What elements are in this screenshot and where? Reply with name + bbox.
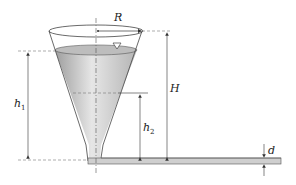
neck-right (101, 145, 103, 158)
h1-label: h1 (14, 97, 26, 112)
outlet-pipe (88, 158, 281, 164)
radius-label: R (113, 11, 122, 24)
d-label: d (268, 144, 275, 157)
tank-diagram: R h1 h2 H d (0, 0, 296, 185)
h2-label: h2 (143, 121, 155, 136)
H-label: H (169, 82, 180, 95)
